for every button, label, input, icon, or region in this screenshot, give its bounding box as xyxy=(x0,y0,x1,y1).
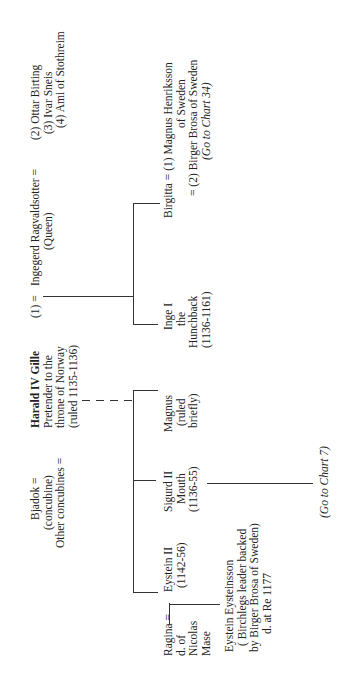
eystein-years: (1142-56) xyxy=(175,542,188,592)
eystein-eysteinsson-block: Eystein Eysteinsson ( Birchlegs leader b… xyxy=(223,523,273,652)
harald-children-bar xyxy=(133,390,134,593)
bjadok-block: Bjadok = (concubine) Other concubines = xyxy=(29,458,67,548)
magnus-name: Magnus xyxy=(162,394,175,432)
inge-name: Inge I xyxy=(162,291,175,348)
birgitta-block: Birgitta = (1) Magnus Henriksson of Swed… xyxy=(162,60,212,218)
birgitta-marriage-1: Birgitta = (1) Magnus Henriksson xyxy=(162,60,175,218)
inge-years: (1136-1161) xyxy=(200,291,213,348)
bjadok-title: (concubine) xyxy=(42,458,55,548)
sigurd-branch xyxy=(133,480,156,481)
sigurd-descent-line xyxy=(207,483,313,484)
eystein-branch xyxy=(133,592,158,593)
inge-branch xyxy=(133,324,158,325)
spouse-ottar: (2) Ottar Birting xyxy=(29,31,42,140)
eystein-eysteinsson-death: d. at Re 1177 xyxy=(261,523,274,652)
sigurd-block: Sigurd II Mouth (1136-55) xyxy=(162,466,200,512)
birgitta-branch xyxy=(133,203,160,204)
genealogy-chart: (2) Ottar Birting (3) Ivar Sneis (4) Ami… xyxy=(0,0,348,680)
harald-desc-2: throne of Norway xyxy=(54,345,67,428)
sigurd-name: Sigurd II xyxy=(162,466,175,512)
ingegerd-block: Ingegerd Ragvaldsotter = (Queen) xyxy=(29,169,54,286)
harald-descent-dashed-line xyxy=(82,400,133,401)
eystein-eysteinsson-name: Eystein Eysteinsson xyxy=(223,523,236,652)
harald-desc-3: (ruled 1135-1136) xyxy=(67,345,80,428)
spouse-ivar: (3) Ivar Sneis xyxy=(42,31,55,140)
ingegerd-marriage-prefix: (1) = xyxy=(29,295,42,318)
magnus-branch xyxy=(133,390,158,391)
harald-block: Harald IV Gille Pretender to the throne … xyxy=(29,345,79,428)
birgitta-marriage-2: = (2) Birger Brosa of Sweden xyxy=(187,60,200,218)
magnus-block: Magnus (ruled briefly) xyxy=(162,394,200,432)
ingegerd-title: (Queen) xyxy=(42,169,55,286)
inge-block: Inge I the Hunchback (1136-1161) xyxy=(162,291,212,348)
eystein-eysteinsson-descent xyxy=(170,604,220,605)
eystein-name: Eystein II xyxy=(162,542,175,592)
sigurd-years: (1136-55) xyxy=(187,466,200,512)
eystein-ragina-union xyxy=(169,603,170,625)
chart-34-ref[interactable]: (Go to Chart 34) xyxy=(200,60,213,218)
ingegerd-children-bar xyxy=(133,203,134,325)
harald-name: Harald IV Gille xyxy=(29,345,42,428)
chart-7-ref[interactable]: (Go to Chart 7) xyxy=(318,446,331,518)
bjadok-name: Bjadok = xyxy=(29,458,42,548)
ingegerd-other-spouses: (2) Ottar Birting (3) Ivar Sneis (4) Ami… xyxy=(29,31,67,140)
other-concubines: Other concubines = xyxy=(54,458,67,548)
ingegerd-union-line xyxy=(43,296,134,297)
spouse-ami: (4) Ami of Stothreim xyxy=(54,31,67,140)
eystein-block: Eystein II (1142-56) xyxy=(162,542,187,592)
ingegerd-name: Ingegerd Ragvaldsotter = xyxy=(29,169,42,286)
harald-desc-1: Pretender to the xyxy=(42,345,55,428)
